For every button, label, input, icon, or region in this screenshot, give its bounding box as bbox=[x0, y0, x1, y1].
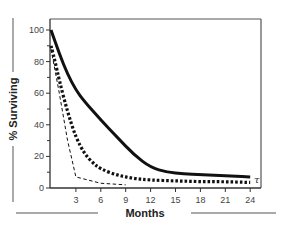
x-axis-title: Months bbox=[125, 207, 164, 219]
series-lines bbox=[51, 30, 250, 185]
y-tick-label: 100 bbox=[29, 25, 44, 35]
series-dotted-line bbox=[51, 46, 250, 183]
survival-chart: 020406080100 3691215182124 Months % Surv… bbox=[0, 0, 290, 227]
x-tick-label: 21 bbox=[220, 195, 230, 205]
x-tick-label: 18 bbox=[195, 195, 205, 205]
x-axis-ticks: 3691215182124 bbox=[73, 188, 255, 205]
y-tick-label: 20 bbox=[34, 151, 44, 161]
y-axis-title: % Surviving bbox=[7, 78, 19, 141]
tau-annotation: τ bbox=[254, 174, 260, 185]
y-tick-label: 40 bbox=[34, 120, 44, 130]
series-solid-line bbox=[51, 30, 250, 177]
y-tick-label: 0 bbox=[39, 183, 44, 193]
x-tick-label: 6 bbox=[98, 195, 103, 205]
x-tick-label: 24 bbox=[245, 195, 255, 205]
chart-canvas: 020406080100 3691215182124 Months % Surv… bbox=[0, 0, 290, 227]
series-dashed-line bbox=[51, 49, 126, 185]
x-tick-label: 12 bbox=[146, 195, 156, 205]
y-tick-label: 60 bbox=[34, 88, 44, 98]
y-tick-label: 80 bbox=[34, 57, 44, 67]
x-tick-label: 9 bbox=[123, 195, 128, 205]
plot-frame bbox=[50, 19, 261, 188]
x-tick-label: 15 bbox=[170, 195, 180, 205]
x-tick-label: 3 bbox=[73, 195, 78, 205]
y-axis-ticks: 020406080100 bbox=[29, 25, 50, 193]
